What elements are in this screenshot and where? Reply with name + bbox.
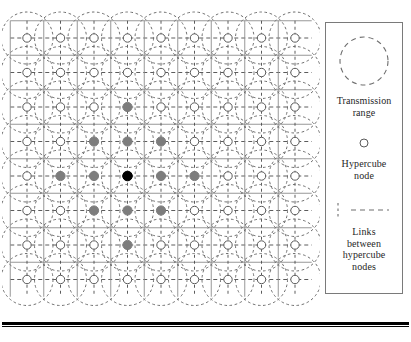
hypercube-node-open: [23, 172, 31, 180]
hypercube-node-open: [224, 241, 232, 249]
hypercube-node-reached: [123, 137, 132, 146]
legend-label-hypercube-node: Hypercube node: [327, 158, 401, 181]
hypercube-node-open: [257, 275, 265, 283]
hypercube-node-open: [123, 68, 131, 76]
hypercube-node-open: [56, 103, 64, 111]
hypercube-node-open: [23, 34, 31, 42]
hypercube-node-source: [123, 171, 133, 181]
hypercube-node-open: [157, 275, 165, 283]
hypercube-node-reached: [190, 171, 199, 180]
hypercube-node-open: [90, 68, 98, 76]
hypercube-node-open: [23, 68, 31, 76]
legend-label-line: between: [327, 238, 401, 250]
hypercube-node-open: [90, 275, 98, 283]
hypercube-node-open: [257, 206, 265, 214]
hypercube-node-reached: [89, 137, 98, 146]
hypercube-node-open: [224, 275, 232, 283]
hypercube-node-reached: [89, 206, 98, 215]
legend-box: Transmission range Hypercube node Links …: [325, 22, 403, 294]
hypercube-node-open: [123, 34, 131, 42]
hypercube-node-open: [157, 103, 165, 111]
hypercube-node-open: [257, 241, 265, 249]
hypercube-node-open: [224, 172, 232, 180]
hypercube-node-open: [257, 137, 265, 145]
hypercube-node-open: [291, 137, 299, 145]
link-layer: [10, 21, 312, 297]
hypercube-node-reached: [156, 137, 165, 146]
legend-label-line: range: [327, 107, 401, 119]
hypercube-node-open: [291, 241, 299, 249]
hypercube-node-open: [56, 241, 64, 249]
hypercube-node-open: [291, 275, 299, 283]
hypercube-node-open: [56, 275, 64, 283]
hypercube-node-open: [291, 206, 299, 214]
hypercube-node-open: [257, 103, 265, 111]
hypercube-node-open: [56, 206, 64, 214]
grid-layer: [1, 12, 321, 306]
hypercube-node-open: [157, 34, 165, 42]
hypercube-node-open: [224, 206, 232, 214]
legend-label-line: nodes: [327, 261, 401, 273]
legend-label-transmission-range: Transmission range: [327, 95, 401, 118]
hypercube-node-open: [23, 206, 31, 214]
hypercube-node-open: [157, 241, 165, 249]
hypercube-node-open: [190, 275, 198, 283]
hypercube-node-open: [157, 68, 165, 76]
dashed-line-icon: [333, 201, 395, 219]
hypercube-node-open: [23, 137, 31, 145]
hypercube-node-reached: [123, 240, 132, 249]
hypercube-node-open: [190, 34, 198, 42]
hypercube-node-open: [224, 103, 232, 111]
hypercube-node-open: [257, 172, 265, 180]
hypercube-node-open: [190, 68, 198, 76]
dashed-circle-icon: [336, 34, 392, 88]
bottom-rule-thick: [2, 322, 409, 325]
hypercube-node-open: [23, 103, 31, 111]
hypercube-node-open: [56, 137, 64, 145]
hypercube-node-open: [90, 34, 98, 42]
hypercube-node-open: [123, 275, 131, 283]
figure-canvas: Transmission range Hypercube node Links …: [0, 0, 411, 342]
hypercube-node-open: [291, 68, 299, 76]
hypercube-node-open: [190, 206, 198, 214]
hypercube-node-reached: [123, 206, 132, 215]
hypercube-node-open: [291, 34, 299, 42]
hypercube-node-reached: [56, 171, 65, 180]
hypercube-node-open: [190, 137, 198, 145]
hypercube-node-open: [291, 172, 299, 180]
hypercube-node-open: [257, 68, 265, 76]
hypercube-node-reached: [156, 171, 165, 180]
hypercube-node-open: [224, 34, 232, 42]
bottom-rule-thin: [2, 326, 409, 327]
hypercube-node-open: [56, 34, 64, 42]
hypercube-node-open: [257, 34, 265, 42]
legend-label-links: Links between hypercube nodes: [327, 226, 401, 272]
hypercube-node-reached: [156, 206, 165, 215]
hypercube-node-open: [190, 103, 198, 111]
small-circle-icon: [354, 136, 374, 150]
legend-label-line: node: [327, 170, 401, 182]
hypercube-node-reached: [123, 102, 132, 111]
hypercube-node-open: [23, 275, 31, 283]
hypercube-node-open: [90, 241, 98, 249]
legend-label-line: hypercube: [327, 249, 401, 261]
hypercube-node-open: [56, 68, 64, 76]
hypercube-node-open: [23, 241, 31, 249]
hypercube-node-reached: [89, 171, 98, 180]
hypercube-node-open: [291, 103, 299, 111]
legend-label-line: Transmission: [327, 95, 401, 107]
legend-label-line: Hypercube: [327, 158, 401, 170]
hypercube-node-open: [224, 137, 232, 145]
hypercube-node-open: [190, 241, 198, 249]
hypercube-node-open: [224, 68, 232, 76]
legend-label-line: Links: [327, 226, 401, 238]
hypercube-node-open: [90, 103, 98, 111]
